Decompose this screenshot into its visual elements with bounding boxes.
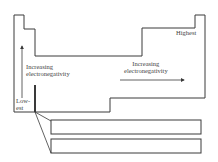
- horizontal-trend-label: Increasing electronegativity: [124, 61, 168, 75]
- highest-label: Highest: [176, 30, 196, 37]
- connector-line-bottom: [35, 112, 51, 153]
- periodic-table-diagram: Highest Increasing electronegativity Inc…: [0, 0, 218, 162]
- vertical-trend-line2: electronegativity: [26, 71, 70, 78]
- periodic-table-outline: [0, 0, 218, 162]
- f-block-row-lanthanides: [51, 120, 201, 134]
- lowest-line2: est: [16, 105, 30, 112]
- f-block-slot: [34, 85, 36, 112]
- lowest-label: Low- est: [16, 98, 30, 112]
- vertical-trend-label: Increasing electronegativity: [26, 64, 70, 78]
- connector-line-top: [35, 112, 51, 121]
- horizontal-trend-line2: electronegativity: [124, 68, 168, 75]
- f-block-row-actinides: [51, 139, 201, 153]
